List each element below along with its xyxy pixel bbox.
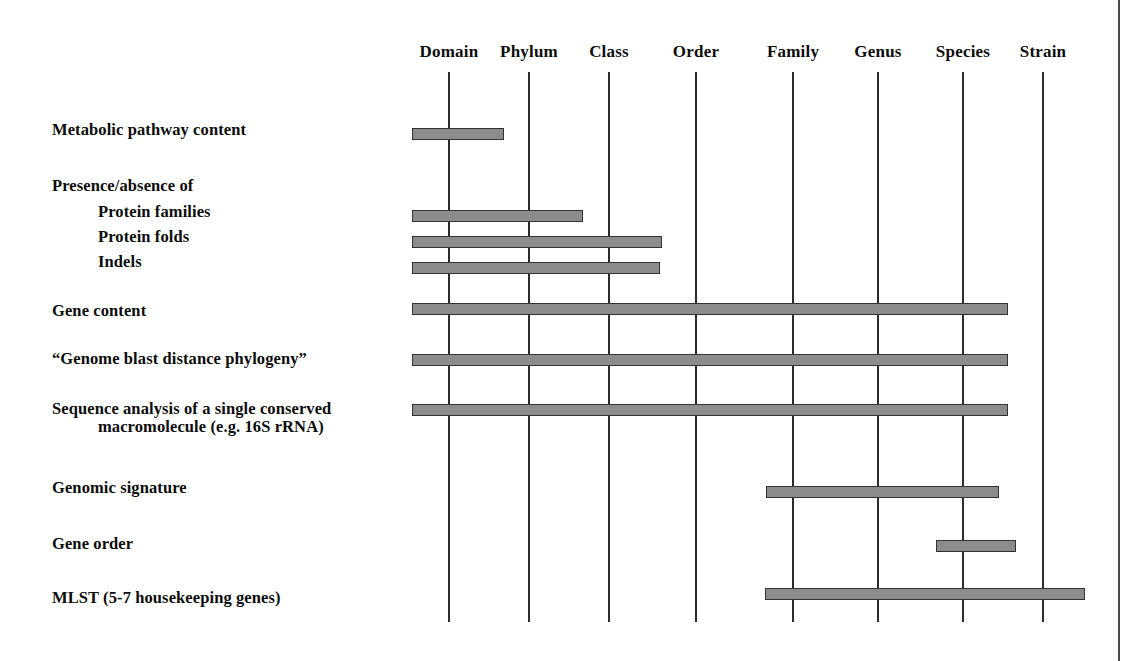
- rank-gridline-class: [608, 72, 610, 622]
- row-label-line: Protein folds: [98, 228, 189, 246]
- row-label-gene-order: Gene order: [52, 535, 133, 553]
- row-label-line: Gene content: [52, 302, 146, 320]
- row-label-line: Protein families: [98, 203, 211, 221]
- page-border-right: [1118, 0, 1120, 661]
- resolution-bar-genome-blast-distance-phylogeny: [412, 354, 1008, 366]
- rank-gridline-family: [792, 72, 794, 622]
- row-label-line: Indels: [98, 253, 142, 271]
- row-label-gene-content: Gene content: [52, 302, 146, 320]
- row-label-metabolic-pathway-content: Metabolic pathway content: [52, 121, 246, 139]
- row-label-sequence-analysis-single-conserved-macromolecule: Sequence analysis of a single conservedm…: [52, 400, 331, 437]
- row-label-genome-blast-distance-phylogeny: “Genome blast distance phylogeny”: [52, 350, 307, 368]
- row-label-line: Metabolic pathway content: [52, 121, 246, 139]
- resolution-bar-gene-order: [936, 540, 1016, 552]
- rank-label-genus: Genus: [854, 42, 901, 62]
- rank-gridline-domain: [448, 72, 450, 622]
- row-label-line: Presence/absence of: [52, 177, 193, 195]
- rank-gridline-order: [695, 72, 697, 622]
- row-label-line: macromolecule (e.g. 16S rRNA): [52, 418, 331, 436]
- rank-label-phylum: Phylum: [500, 42, 558, 62]
- row-label-protein-families: Protein families: [98, 203, 211, 221]
- row-label-indels: Indels: [98, 253, 142, 271]
- row-label-line: Gene order: [52, 535, 133, 553]
- rank-label-species: Species: [936, 42, 990, 62]
- resolution-bar-metabolic-pathway-content: [412, 128, 504, 140]
- resolution-bar-protein-folds: [412, 236, 662, 248]
- resolution-bar-indels: [412, 262, 660, 274]
- resolution-bar-gene-content: [412, 303, 1008, 315]
- row-label-line: Genomic signature: [52, 479, 187, 497]
- taxonomic-resolution-figure: DomainPhylumClassOrderFamilyGenusSpecies…: [0, 0, 1143, 661]
- row-label-presence-absence-heading: Presence/absence of: [52, 177, 193, 195]
- rank-label-strain: Strain: [1020, 42, 1067, 62]
- row-label-mlst-housekeeping-genes: MLST (5-7 housekeeping genes): [52, 589, 281, 607]
- rank-label-class: Class: [589, 42, 629, 62]
- rank-gridline-genus: [877, 72, 879, 622]
- resolution-bar-mlst-housekeeping-genes: [765, 588, 1085, 600]
- resolution-bar-sequence-analysis-single-conserved-macromolecule: [412, 404, 1008, 416]
- resolution-bar-genomic-signature: [766, 486, 999, 498]
- row-label-line: MLST (5-7 housekeeping genes): [52, 589, 281, 607]
- rank-gridline-strain: [1042, 72, 1044, 622]
- row-label-protein-folds: Protein folds: [98, 228, 189, 246]
- resolution-bar-protein-families: [412, 210, 583, 222]
- row-label-line: “Genome blast distance phylogeny”: [52, 350, 307, 368]
- rank-label-family: Family: [767, 42, 819, 62]
- rank-label-order: Order: [673, 42, 719, 62]
- rank-label-domain: Domain: [420, 42, 479, 62]
- row-label-line: Sequence analysis of a single conserved: [52, 400, 331, 418]
- row-label-genomic-signature: Genomic signature: [52, 479, 187, 497]
- rank-gridline-phylum: [528, 72, 530, 622]
